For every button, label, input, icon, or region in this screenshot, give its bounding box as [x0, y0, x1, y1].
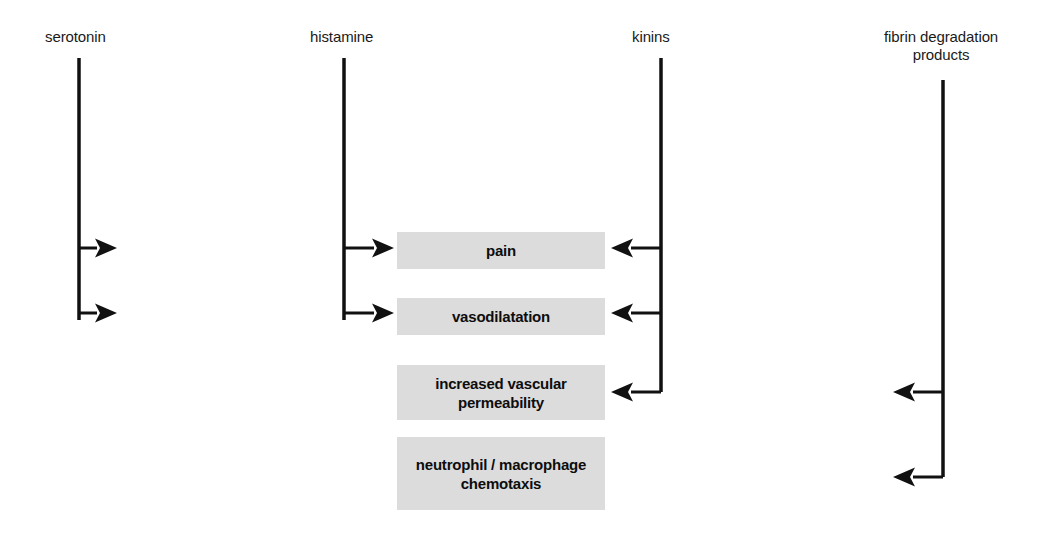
diagram-canvas: serotonin histamine kinins fibrin degrad… [0, 0, 1037, 543]
source-label-kinins: kinins [632, 28, 670, 46]
arrowhead-kinins [611, 383, 633, 402]
arrowhead-serotonin [95, 239, 117, 258]
arrowhead-kinins [611, 304, 633, 323]
arrowhead-serotonin [95, 304, 117, 323]
arrowhead-fibrin-degradation-products [893, 383, 915, 402]
arrowhead-fibrin-degradation-products [893, 468, 915, 487]
source-label-histamine: histamine [310, 28, 373, 46]
arrowhead-histamine [372, 239, 394, 258]
source-label-serotonin: serotonin [45, 28, 106, 46]
effect-box-pain: pain [397, 232, 605, 269]
effect-box-neutrophil-macrophage-chemotaxis: neutrophil / macrophage chemotaxis [397, 437, 605, 510]
effect-box-vasodilatation: vasodilatation [397, 298, 605, 335]
source-label-fibrin-degradation-products: fibrin degradation products [884, 28, 998, 64]
arrowhead-histamine [372, 304, 394, 323]
arrowhead-kinins [611, 239, 633, 258]
effect-box-increased-vascular-permeability: increased vascular permeability [397, 365, 605, 420]
